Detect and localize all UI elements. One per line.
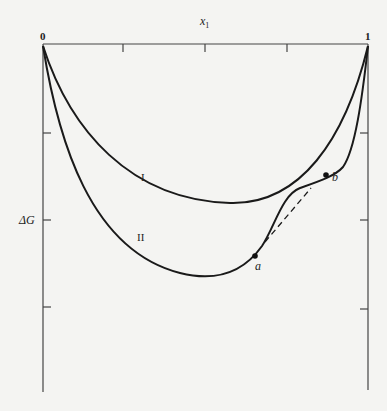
x-start-label: 0: [40, 30, 46, 42]
x-axis-label: x1: [199, 14, 209, 30]
curve-I: [43, 46, 368, 203]
curve-II-label: II: [137, 231, 145, 243]
x-end-label: 1: [365, 30, 371, 42]
curve-II: [43, 46, 368, 276]
point-b: [323, 172, 329, 178]
free-energy-diagram: x1 0 1 ΔG I II a b: [0, 0, 387, 411]
point-a: [252, 253, 258, 259]
y-axis-label: ΔG: [18, 213, 35, 227]
axes: [43, 44, 368, 392]
point-a-label: a: [255, 259, 261, 273]
point-b-label: b: [332, 170, 338, 184]
curve-I-label: I: [141, 171, 145, 183]
